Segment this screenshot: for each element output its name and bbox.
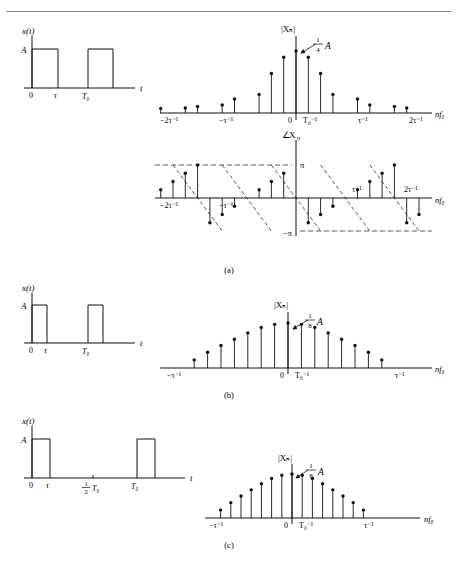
- panel-b-line-14: [380, 358, 383, 368]
- panel-b-tick-T0: T₀: [82, 347, 89, 356]
- panel-a-phase-line-15: [380, 172, 383, 198]
- panel-c-mag-tick-T0: T₀⁻¹: [299, 521, 314, 530]
- panel-b-line-8: [300, 323, 303, 368]
- panel-a-line-8: [294, 49, 297, 113]
- panel-c-line-3: [250, 488, 253, 518]
- panel-a-phase-line-12: [331, 198, 334, 208]
- figure-svg: x(t) A 0 τ T₀ t |Xₙ| 1 4: [0, 0, 458, 561]
- panel-b-peak-num: 1: [308, 312, 312, 320]
- figure-container: x(t) A 0 τ T₀ t |Xₙ| 1 4: [0, 0, 458, 561]
- panel-a-peak-num: 1: [316, 36, 320, 44]
- panel-c-line-9: [311, 477, 314, 518]
- panel-b-line-13: [367, 351, 370, 368]
- panel-a-phase-ylabel-sub: n: [297, 134, 300, 141]
- panel-a-mag-tick--2tau: −2τ⁻¹: [160, 116, 179, 125]
- panel-a-line-5: [257, 93, 260, 113]
- panel-a-tick-tau: τ: [54, 91, 58, 100]
- panel-b-tick-tau: τ: [44, 346, 48, 355]
- panel-c-time-ylabel: x(t): [21, 416, 35, 426]
- panel-a-line-4: [233, 97, 236, 113]
- panel-a-phase-line-9: [282, 172, 285, 198]
- panel-a-tick-T0: T₀: [82, 92, 89, 101]
- panel-a-phase-lines: [159, 163, 421, 224]
- panel-c-magnitude-ylabel: |Xₙ|: [278, 453, 292, 463]
- panel-c-tick-T0: T₀: [131, 482, 138, 491]
- panel-b-line-10: [327, 331, 330, 368]
- panel-c-line-7: [290, 472, 293, 518]
- panel-a-time-xlabel: t: [140, 83, 143, 93]
- panel-a-letter: (a): [224, 265, 234, 275]
- panel-b-peak-den: 8: [308, 322, 312, 330]
- panel-a-line-9: [307, 56, 310, 114]
- panel-a-phase-line-6: [233, 198, 236, 208]
- panel-a-mag-tick-tau: τ⁻¹: [358, 116, 368, 125]
- panel-b-time-plot: x(t) A 0 τ T₀ t: [20, 283, 143, 356]
- panel-c-line-6: [280, 474, 283, 518]
- panel-a-ph-xlabel: nf₀: [435, 195, 445, 205]
- panel-c-half-num: 1: [84, 480, 87, 487]
- panel-c-line-12: [341, 494, 344, 518]
- panel-b-line-5: [260, 326, 263, 368]
- panel-a-mag-tick-T0: T₀⁻¹: [303, 116, 318, 125]
- panel-a-magnitude-ylabel: |Xₙ|: [281, 24, 295, 34]
- panel-a-phase-line-3: [196, 163, 199, 198]
- panel-c-time-plot: x(t) A 0 τ 1 2 T₀ T₀ t: [20, 416, 193, 495]
- panel-a-pi-label: π: [300, 160, 305, 170]
- panel-a-line-3: [221, 103, 224, 113]
- panel-c-mag-tick-tau: τ⁻¹: [364, 521, 374, 530]
- panel-a-phase-line-2: [184, 172, 187, 198]
- panel-a-line-10: [319, 72, 322, 113]
- panel-a-line-7: [282, 56, 285, 114]
- panel-a-peak-den: 4: [316, 46, 320, 54]
- panel-b-letter: (b): [224, 390, 234, 400]
- panel-c-mag-xlabel: nf₀: [424, 514, 434, 524]
- panel-c-line-2: [239, 494, 242, 518]
- panel-a-peak-annotation: 1 4 A: [301, 36, 331, 54]
- panel-a-ph-tick-2tau: 2τ⁻¹: [404, 185, 418, 194]
- panel-c-peak-num: 1: [309, 462, 313, 470]
- panel-b-line-6: [273, 323, 276, 368]
- panel-b-amplitude-label: A: [20, 301, 27, 311]
- panel-b-line-12: [353, 344, 356, 368]
- panel-b-peak-annotation: 1 8 A: [293, 312, 323, 330]
- panel-c-amplitude-label: A: [20, 435, 27, 445]
- panel-b-line-4: [246, 331, 249, 368]
- panel-c-mag-tick-0: 0: [284, 521, 288, 530]
- panel-c-line-11: [331, 488, 334, 518]
- panel-b-line-11: [340, 338, 343, 369]
- panel-c-mag-tick--tau: −τ⁻¹: [209, 521, 224, 530]
- panel-c-line-13: [352, 501, 355, 518]
- panel-b-mag-tick-0: 0: [280, 371, 284, 380]
- panel-a-phase-line-16: [393, 163, 396, 198]
- panel-b-line-2: [219, 344, 222, 368]
- panel-a-neg-pi-label: −π: [283, 228, 293, 238]
- panel-a-line-11: [331, 93, 334, 113]
- panel-a-mag-tick-2tau: 2τ⁻¹: [409, 116, 423, 125]
- panel-b-mag-xlabel: nf₀: [435, 364, 445, 374]
- panel-a-line-6: [270, 72, 273, 113]
- panel-a-amplitude-label: A: [20, 45, 27, 55]
- panel-a-mag-tick--tau: −τ⁻¹: [219, 116, 234, 125]
- panel-a-phase-line-8: [270, 180, 273, 198]
- panel-a-mag-tick-0: 0: [288, 116, 292, 125]
- panel-c-tick-half-T0: 1 2 T₀: [82, 480, 99, 495]
- panel-a-time-ylabel: x(t): [21, 26, 35, 36]
- panel-b-line-0: [193, 358, 196, 368]
- panel-b-line-9: [313, 326, 316, 368]
- panel-c-magnitude-plot: |Xₙ| 1 8 A −τ⁻¹ 0 T₀⁻¹ τ⁻¹ nf₀: [205, 453, 434, 530]
- panel-b-line-1: [206, 351, 209, 368]
- panel-a-ph-tick--tau: −τ⁻¹: [219, 201, 234, 210]
- top-rule: [6, 11, 452, 12]
- panel-a-mag-xlabel: nf₀: [435, 109, 445, 119]
- panel-a-phase-line-1: [171, 180, 174, 198]
- panel-c-tick-0: 0: [29, 481, 33, 490]
- panel-a-phase-line-0: [159, 188, 162, 198]
- panel-a-line-13: [368, 103, 371, 113]
- panel-a-peak-A: A: [324, 41, 331, 51]
- panel-b-magnitude-ylabel: |Xₙ|: [274, 300, 288, 310]
- panel-c-half-den: 2: [84, 488, 87, 495]
- panel-a-line-15: [405, 106, 408, 113]
- panel-a-phase-ylabel-text: X: [289, 130, 296, 140]
- panel-a-phase-line-10: [307, 198, 310, 224]
- panel-c-time-xlabel: t: [190, 473, 193, 483]
